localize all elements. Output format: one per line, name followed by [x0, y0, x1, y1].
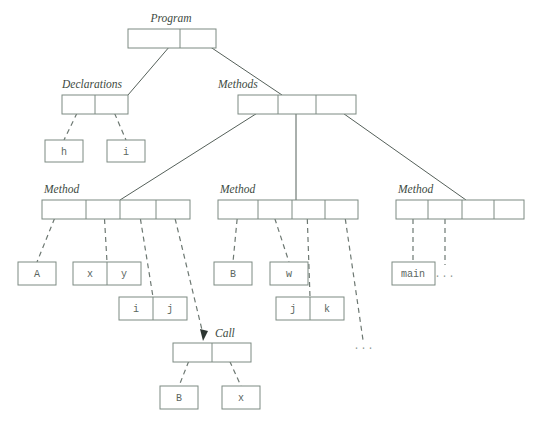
syntax-tree-diagram: Program Declarations Methods Method: [0, 0, 556, 423]
leaf-B-m2-text: B: [230, 269, 236, 280]
leaf-jk[interactable]: j k: [276, 297, 344, 320]
leaf-A-text: A: [34, 269, 40, 280]
leaf-B-call[interactable]: B: [160, 386, 198, 409]
leaf-B-call-text: B: [176, 393, 182, 404]
method-3-node-label: Method: [397, 183, 433, 195]
leaf-main[interactable]: main: [392, 262, 435, 285]
diagram-canvas: Program Declarations Methods Method: [0, 0, 556, 423]
leaf-h[interactable]: h: [45, 140, 83, 162]
program-node-box[interactable]: [128, 29, 216, 48]
leaf-w[interactable]: w: [270, 262, 308, 285]
leaf-x-text: x: [87, 269, 93, 280]
program-node-label: Program: [149, 12, 191, 25]
call-node-label: Call: [215, 327, 235, 339]
leaf-x-call-text: x: [238, 393, 244, 404]
method-2-node-label: Method: [219, 183, 255, 195]
leaf-ij[interactable]: i j: [119, 297, 187, 320]
leaf-i-decl-text: i: [123, 147, 129, 158]
leaf-B-m2[interactable]: B: [214, 262, 252, 285]
method-1-node-box[interactable]: [42, 200, 190, 219]
declarations-node[interactable]: Declarations: [61, 78, 128, 114]
leaf-m3-dots-text: ...: [434, 269, 455, 280]
method-2-node-box[interactable]: [218, 200, 358, 219]
leaf-m2-dots-text: ...: [353, 341, 374, 352]
leaf-xy[interactable]: x y: [73, 262, 141, 285]
methods-node-box[interactable]: [238, 95, 356, 114]
method-3-node-box[interactable]: [396, 200, 524, 219]
leaf-y-text: y: [121, 269, 127, 280]
method-1-node-label: Method: [43, 183, 79, 195]
leaf-i-m1-text: i: [133, 304, 139, 315]
leaf-w-text: w: [286, 269, 292, 280]
leaf-j-m1-text: j: [167, 304, 173, 315]
leaf-k-m2-text: k: [324, 304, 330, 315]
methods-node-label: Methods: [217, 78, 258, 90]
declarations-node-label: Declarations: [61, 78, 123, 90]
leaf-A[interactable]: A: [18, 262, 56, 285]
leaf-x-call[interactable]: x: [222, 386, 260, 409]
leaf-h-text: h: [61, 147, 67, 158]
leaf-main-text: main: [401, 269, 425, 280]
leaf-i-decl[interactable]: i: [107, 140, 145, 162]
leaf-j-m2-text: j: [290, 304, 296, 315]
